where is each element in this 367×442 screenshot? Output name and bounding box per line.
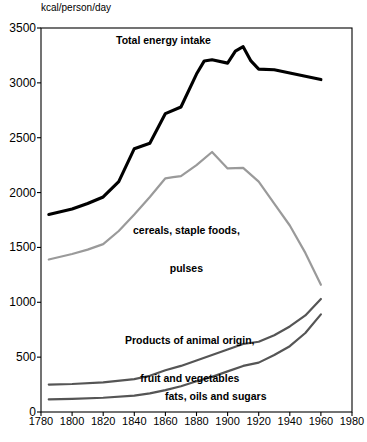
chart-container: kcal/person/day 350030002500200015001000… [0, 0, 367, 442]
x-axis-tick-label: 1880 [180, 415, 214, 427]
y-axis-tick-label: 1000 [0, 295, 36, 309]
series-label-cereals: cereals, staple foods, pulses [133, 199, 240, 299]
y-axis-tick-label: 2000 [0, 186, 36, 200]
y-axis-tick-label: 3500 [0, 21, 36, 35]
x-axis-tick-label: 1940 [273, 415, 307, 427]
y-axis-tick-label: 1500 [0, 240, 36, 254]
x-axis-tick-label: 1980 [335, 415, 367, 427]
x-axis-tick-label: 1900 [211, 415, 245, 427]
x-axis-tick-label: 1840 [117, 415, 151, 427]
series-label-animal-line1: Products of animal origin, [125, 334, 255, 347]
series-label-cereals-line2: pulses [133, 262, 240, 275]
x-axis-tick-label: 1800 [55, 415, 89, 427]
x-axis-tick-label: 1820 [86, 415, 120, 427]
x-axis-tick-label: 1860 [148, 415, 182, 427]
series-label-animal-line2: fruit and vegetables [125, 372, 255, 385]
x-axis-tick-label: 1960 [304, 415, 338, 427]
x-axis-tick-label: 1780 [24, 415, 58, 427]
series-line-0 [49, 47, 321, 215]
y-axis-tick-label: 3000 [0, 76, 36, 90]
series-label-fats-oils-sugars: fats, oils and sugars [165, 390, 267, 403]
series-label-total-energy-intake: Total energy intake [116, 34, 211, 47]
x-axis-tick-label: 1920 [242, 415, 276, 427]
y-axis-tick-label: 2500 [0, 131, 36, 145]
series-label-cereals-line1: cereals, staple foods, [133, 224, 240, 237]
y-axis-tick-label: 500 [0, 350, 36, 364]
